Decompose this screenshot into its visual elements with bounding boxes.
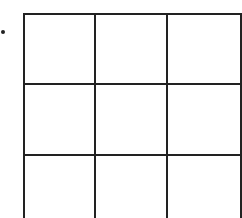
grid-cell [168,15,240,83]
grid-cell [96,85,166,154]
grid-diagram [23,13,241,218]
grid-cell [96,156,166,218]
grid-line-vertical [240,13,242,218]
grid-cell [25,15,94,83]
grid-cell [168,85,240,154]
grid-cell [25,156,94,218]
grid-cell [168,156,240,218]
grid-cell [96,15,166,83]
grid-cell [25,85,94,154]
bullet-dot [1,30,5,34]
